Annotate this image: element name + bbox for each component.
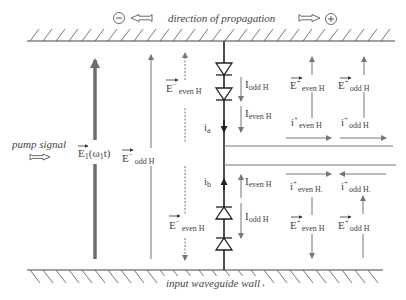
i-plus-even-bottom-label: i+even H. (290, 179, 323, 194)
propagation-title: direction of propagation (168, 12, 276, 24)
diode-icon-top-1 (216, 63, 232, 75)
e-plus-odd-top-label: E+odd H (338, 78, 370, 93)
i-plus-even-top-label: i+even H (291, 115, 322, 130)
pump-hollow-arrow-icon (30, 154, 50, 160)
svg-text:E1(ω1t): E1(ω1t) (78, 147, 111, 161)
pump-signal: pump signal (11, 138, 66, 160)
diode-icon-top-2 (216, 88, 232, 100)
e-minus-odd-label: E−odd H (122, 150, 155, 166)
ia-label: ia (204, 121, 211, 135)
wall-marker: › (262, 280, 265, 289)
left-hollow-arrow-icon (131, 15, 152, 22)
svg-text:E−even H: E−even H (166, 81, 202, 96)
ib-label: ib (204, 175, 211, 189)
e-minus-even-label-bottom: E−even H (169, 216, 205, 233)
e-plus-odd-bottom-label: E+odd H (338, 218, 370, 233)
e-plus-even-bottom-label: E+even H (290, 218, 325, 233)
i-plus-odd-bottom-label: i+odd H. (341, 179, 371, 194)
diagram-canvas: direction of propagation input waveguide… (0, 0, 406, 300)
svg-text:E−even H: E−even H (169, 218, 205, 233)
i-even-top-label: Ieven H (245, 107, 272, 121)
i-odd-bottom-label: Iodd H (245, 210, 269, 224)
top-waveguide-wall (27, 29, 395, 41)
right-top-group: E+even H E+odd H i+even H i+odd H (286, 57, 386, 138)
pump-field-label: E1(ω1t) (78, 146, 111, 161)
right-bottom-group: i+even H. i+odd H. E+even H E+odd H (286, 174, 386, 258)
input-waveguide-wall-label: input waveguide wall (166, 277, 260, 289)
bottom-waveguide-wall: input waveguide wall › (27, 270, 383, 290)
i-odd-top-label: Iodd H (245, 78, 269, 92)
e-minus-even-label-top: E−even H (166, 80, 202, 96)
e-plus-even-top-label: E+even H (290, 78, 325, 93)
diode-icon-bottom-2 (216, 238, 232, 250)
svg-text:E−odd H: E−odd H (122, 151, 155, 166)
propagation-header: direction of propagation (114, 12, 337, 25)
right-hollow-arrow-icon (299, 15, 320, 22)
pump-signal-label: pump signal (11, 138, 66, 150)
diode-icon-bottom-1 (216, 207, 232, 219)
i-plus-odd-top-label: i+odd H (341, 115, 369, 130)
i-even-bottom-label: Ieven H (245, 175, 272, 189)
diode-column (216, 41, 232, 270)
